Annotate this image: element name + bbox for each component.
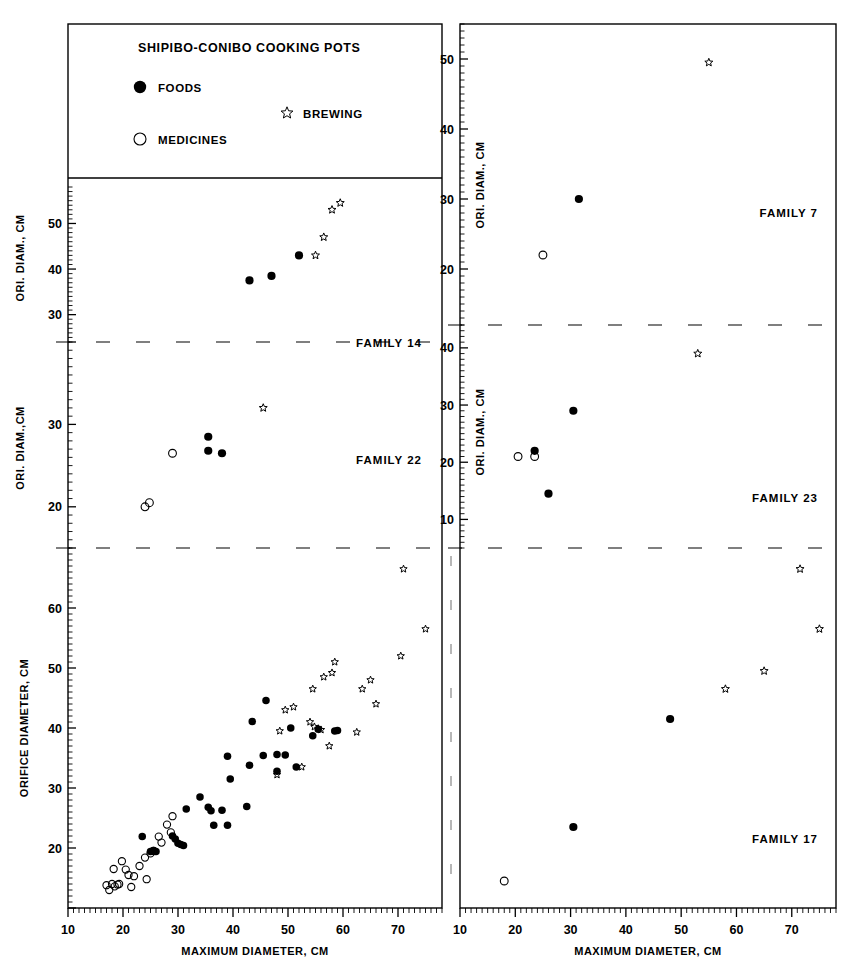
figure-title: SHIPIBO-CONIBO COOKING POTS (138, 41, 360, 55)
marker-brewing (331, 658, 338, 665)
marker-brewing (320, 233, 328, 241)
marker-foods (224, 752, 232, 760)
marker-foods (138, 833, 146, 841)
x-tick-label: 30 (171, 923, 185, 937)
marker-foods (204, 433, 212, 441)
marker-brewing (259, 404, 267, 412)
marker-medicines (163, 821, 170, 828)
y-axis-ticks (68, 548, 76, 908)
y-tick-label: 50 (48, 662, 62, 676)
legend-label-medicines: MEDICINES (158, 134, 227, 146)
y-tick-label: 50 (440, 53, 454, 67)
y-tick-label: 50 (48, 217, 62, 231)
marker-foods (245, 276, 253, 284)
marker-brewing (312, 251, 320, 259)
marker-brewing (336, 199, 344, 207)
marker-foods (281, 751, 289, 759)
x-tick-label: 30 (564, 923, 578, 937)
series-foods (531, 407, 578, 498)
y-tick-label: 20 (48, 500, 62, 514)
marker-medicines (500, 877, 508, 885)
marker-foods (309, 732, 317, 740)
y-axis-ticks (460, 24, 468, 325)
marker-brewing (309, 685, 316, 692)
series-foods (204, 433, 226, 458)
series-medicines (103, 813, 176, 894)
multi-panel-scatter-plot: SHIPIBO-CONIBO COOKING POTSFOODSMEDICINE… (0, 0, 856, 976)
y-axis-title-main: ORIFICE DIAMETER, CM (18, 659, 30, 797)
x-tick-label: 20 (508, 923, 522, 937)
data-layer-family-22 (141, 404, 267, 511)
y-tick-label: 40 (48, 263, 62, 277)
series-foods (569, 715, 674, 831)
marker-brewing (359, 685, 366, 692)
marker-brewing (281, 107, 293, 118)
left-column-frame (68, 24, 442, 908)
series-brewing (273, 565, 429, 778)
series-medicines (539, 251, 547, 259)
marker-brewing (290, 703, 297, 710)
x-tick-label: 70 (785, 923, 799, 937)
marker-brewing (328, 206, 336, 214)
x-tick-label: 10 (453, 923, 467, 937)
marker-foods (262, 697, 270, 705)
marker-foods (544, 490, 552, 498)
data-layer-all-families (103, 565, 429, 893)
x-tick-label: 40 (619, 923, 633, 937)
marker-foods (207, 807, 215, 815)
x-tick-label: 60 (336, 923, 350, 937)
marker-foods (152, 848, 160, 856)
marker-brewing (705, 58, 713, 66)
marker-foods (218, 806, 226, 814)
marker-medicines (110, 865, 117, 872)
panel-label-family-14: FAMILY 14 (356, 337, 422, 349)
marker-foods (246, 761, 254, 769)
marker-foods (259, 752, 267, 760)
series-brewing (312, 199, 345, 259)
x-tick-label: 50 (674, 923, 688, 937)
data-layer-family-23 (514, 349, 702, 497)
marker-foods (224, 821, 232, 829)
marker-foods (134, 81, 146, 93)
series-medicines (141, 449, 176, 510)
data-layer-family-7 (539, 58, 713, 259)
y-tick-label: 40 (440, 341, 454, 355)
marker-medicines (136, 862, 143, 869)
panel-label-family-17: FAMILY 17 (752, 833, 818, 845)
y-tick-label: 30 (440, 193, 454, 207)
marker-medicines (118, 858, 125, 865)
y-tick-label: 40 (48, 722, 62, 736)
x-tick-label: 70 (391, 923, 405, 937)
y-tick-label: 40 (440, 123, 454, 137)
marker-foods (204, 447, 212, 455)
marker-foods (196, 793, 204, 801)
y-tick-label: 30 (48, 308, 62, 322)
marker-foods (182, 805, 190, 813)
y-tick-label: 10 (440, 513, 454, 527)
marker-brewing (400, 565, 407, 572)
data-layer-family-14 (245, 199, 344, 285)
y-tick-label: 30 (48, 418, 62, 432)
legend-label-foods: FOODS (158, 82, 202, 94)
legend-label-brewing: BREWING (303, 108, 363, 120)
x-axis-title-main: MAXIMUM DIAMETER, CM (181, 945, 329, 957)
marker-foods (287, 724, 295, 732)
series-brewing (694, 349, 702, 357)
y-tick-label: 20 (48, 842, 62, 856)
x-tick-label: 10 (61, 923, 75, 937)
y-tick-label: 30 (48, 782, 62, 796)
y-axis-title-family22: ORI. DIAM.,CM (14, 406, 26, 490)
marker-foods (575, 195, 583, 203)
x-tick-label: 20 (116, 923, 130, 937)
marker-brewing (320, 673, 327, 680)
legend: SHIPIBO-CONIBO COOKING POTSFOODSMEDICINE… (134, 41, 363, 146)
y-tick-label: 60 (48, 602, 62, 616)
marker-brewing (796, 565, 804, 573)
marker-foods (210, 821, 218, 829)
y-tick-label: 30 (440, 399, 454, 413)
y-axis-ticks (460, 325, 468, 548)
marker-foods (243, 803, 251, 811)
marker-brewing (326, 742, 333, 749)
panel-label-family-23: FAMILY 23 (752, 492, 818, 504)
right-column-frame (460, 24, 836, 908)
